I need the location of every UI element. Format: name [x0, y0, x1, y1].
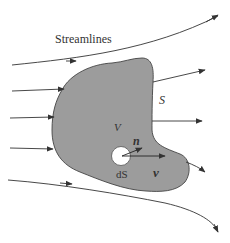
- area-element-label: dS: [116, 168, 128, 180]
- streamline-1: [12, 15, 218, 65]
- velocity-label: v: [153, 165, 159, 180]
- normal-label: n: [133, 134, 140, 148]
- flow-arrow-icon: [60, 183, 72, 184]
- streamlines-label: Streamlines: [55, 32, 112, 46]
- surface-label: S: [159, 93, 165, 107]
- control-volume-diagram: Streamlines S V n v dS: [0, 0, 230, 243]
- streamline-5: [8, 180, 218, 232]
- flow-arrow-icon: [206, 15, 218, 22]
- flow-arrow-icon: [214, 224, 218, 232]
